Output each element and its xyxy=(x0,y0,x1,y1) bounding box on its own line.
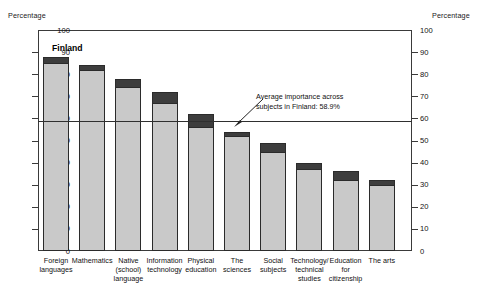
bar-4 xyxy=(152,92,178,251)
y-tick-label-right-20: 20 xyxy=(420,202,442,211)
annotation-line-2: subjects in Finland: 58.9% xyxy=(256,102,343,112)
y-tick-label-right-100: 100 xyxy=(420,26,442,35)
y-tick-mark-right-40 xyxy=(412,163,418,164)
bar-4-dark-segment xyxy=(152,92,178,104)
y-tick-mark-left-70 xyxy=(32,96,38,97)
y-tick-mark-left-10 xyxy=(32,229,38,230)
y-tick-mark-right-50 xyxy=(412,141,418,142)
y-tick-mark-left-40 xyxy=(32,163,38,164)
bar-10-dark-segment xyxy=(369,180,395,185)
bar-10 xyxy=(369,180,395,251)
y-tick-label-right-50: 50 xyxy=(420,136,442,145)
y-tick-mark-right-20 xyxy=(412,207,418,208)
annotation-text: Average importance across subjects in Fi… xyxy=(256,92,343,111)
left-axis-caption: Percentage xyxy=(8,11,46,20)
y-tick-mark-right-90 xyxy=(412,52,418,53)
y-tick-label-right-30: 30 xyxy=(420,180,442,189)
bar-9 xyxy=(333,171,359,251)
y-tick-label-right-80: 80 xyxy=(420,70,442,79)
x-axis-label-line: citizenship xyxy=(323,274,369,283)
x-axis-label-line: for xyxy=(323,265,369,274)
bar-2-dark-segment xyxy=(79,65,105,70)
bar-1 xyxy=(43,57,69,251)
y-tick-mark-left-50 xyxy=(32,141,38,142)
bar-5 xyxy=(188,114,214,251)
country-label: Finland xyxy=(52,43,83,53)
x-axis-label-line: languages xyxy=(33,265,79,274)
bar-8 xyxy=(296,163,322,251)
y-tick-mark-right-60 xyxy=(412,118,418,119)
bar-3 xyxy=(115,79,141,251)
bar-7 xyxy=(260,143,286,251)
annotation-line-1: Average importance across xyxy=(256,92,343,102)
average-reference-line xyxy=(38,121,412,122)
x-axis-label-10: The arts xyxy=(359,256,405,265)
x-axis-label-line: language xyxy=(105,274,151,283)
y-tick-mark-right-10 xyxy=(412,229,418,230)
y-tick-mark-left-80 xyxy=(32,74,38,75)
y-tick-label-left-100: 100 xyxy=(50,26,70,35)
y-tick-mark-right-80 xyxy=(412,74,418,75)
y-tick-mark-right-30 xyxy=(412,185,418,186)
bar-8-dark-segment xyxy=(296,163,322,171)
right-axis-caption: Percentage xyxy=(432,11,470,20)
y-tick-label-right-0: 0 xyxy=(420,247,442,256)
y-tick-label-right-40: 40 xyxy=(420,158,442,167)
bar-2 xyxy=(79,65,105,251)
bar-7-dark-segment xyxy=(260,143,286,153)
y-tick-mark-left-60 xyxy=(32,118,38,119)
bar-3-dark-segment xyxy=(115,79,141,89)
bar-6-dark-segment xyxy=(224,132,250,137)
y-tick-mark-right-70 xyxy=(412,96,418,97)
y-tick-mark-left-90 xyxy=(32,52,38,53)
y-tick-label-right-60: 60 xyxy=(420,114,442,123)
bar-chart: Percentage Percentage 100100909080807070… xyxy=(0,0,480,304)
y-tick-label-right-10: 10 xyxy=(420,224,442,233)
y-tick-label-right-90: 90 xyxy=(420,48,442,57)
x-axis-label-line: The arts xyxy=(359,256,405,265)
y-tick-mark-left-20 xyxy=(32,207,38,208)
bar-6 xyxy=(224,132,250,251)
bar-9-dark-segment xyxy=(333,171,359,181)
y-tick-label-right-70: 70 xyxy=(420,92,442,101)
y-tick-mark-left-30 xyxy=(32,185,38,186)
bar-1-dark-segment xyxy=(43,57,69,65)
